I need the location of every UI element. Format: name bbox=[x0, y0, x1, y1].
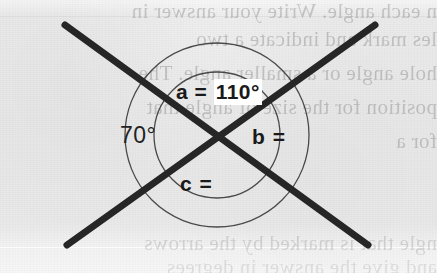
scanned-diagram-page: n each angle. Write your answer in les m… bbox=[0, 0, 437, 273]
angle-a-prefix: a = bbox=[176, 80, 214, 103]
angle-label-c: c = bbox=[180, 173, 213, 194]
angle-label-given-70: 70° bbox=[120, 124, 156, 147]
angle-diagram-svg bbox=[0, 0, 437, 273]
angle-a-value: 110° bbox=[214, 79, 262, 105]
angle-label-b: b = bbox=[252, 126, 286, 147]
angle-label-a: a = 110° bbox=[176, 81, 262, 102]
